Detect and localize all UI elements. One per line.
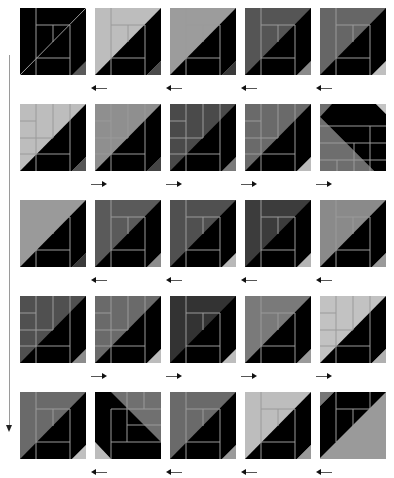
tile-r3-c1 <box>20 200 86 267</box>
tile-r5-c5 <box>320 392 386 459</box>
tile-r5-c4 <box>245 392 311 459</box>
arrow-left-icon <box>91 277 107 283</box>
arrow-right-icon <box>166 373 182 379</box>
arrow-right-icon <box>241 181 257 187</box>
arrow-left-icon <box>316 85 332 91</box>
arrow-left-icon <box>316 469 332 475</box>
tile-r1-c1 <box>20 8 86 75</box>
tile-r1-c2 <box>95 8 161 75</box>
arrow-right-icon <box>316 181 332 187</box>
tile-r4-c4 <box>245 296 311 363</box>
vertical-progress-line <box>9 55 10 427</box>
arrow-left-icon <box>241 277 257 283</box>
arrow-right-icon <box>166 181 182 187</box>
down-arrow-icon <box>6 425 12 432</box>
tile-r4-c3 <box>170 296 236 363</box>
arrow-left-icon <box>166 277 182 283</box>
tile-r3-c2 <box>95 200 161 267</box>
tile-r2-c5 <box>320 104 386 171</box>
tile-r2-c4 <box>245 104 311 171</box>
arrow-right-icon <box>241 373 257 379</box>
arrow-right-icon <box>91 181 107 187</box>
tile-r1-c3 <box>170 8 236 75</box>
arrow-left-icon <box>166 469 182 475</box>
arrow-left-icon <box>91 85 107 91</box>
tile-r5-c2 <box>95 392 161 459</box>
tile-r4-c5 <box>320 296 386 363</box>
tile-r5-c3 <box>170 392 236 459</box>
arrow-left-icon <box>91 469 107 475</box>
tile-r2-c3 <box>170 104 236 171</box>
arrow-left-icon <box>241 469 257 475</box>
tile-r2-c1 <box>20 104 86 171</box>
arrow-left-icon <box>316 277 332 283</box>
tile-r3-c5 <box>320 200 386 267</box>
arrow-right-icon <box>316 373 332 379</box>
tile-r5-c1 <box>20 392 86 459</box>
tile-r4-c2 <box>95 296 161 363</box>
tile-r1-c4 <box>245 8 311 75</box>
tile-r3-c3 <box>170 200 236 267</box>
arrow-left-icon <box>166 85 182 91</box>
tile-r3-c4 <box>245 200 311 267</box>
arrow-left-icon <box>241 85 257 91</box>
tile-r4-c1 <box>20 296 86 363</box>
tile-r1-c5 <box>320 8 386 75</box>
tile-r2-c2 <box>95 104 161 171</box>
arrow-right-icon <box>91 373 107 379</box>
